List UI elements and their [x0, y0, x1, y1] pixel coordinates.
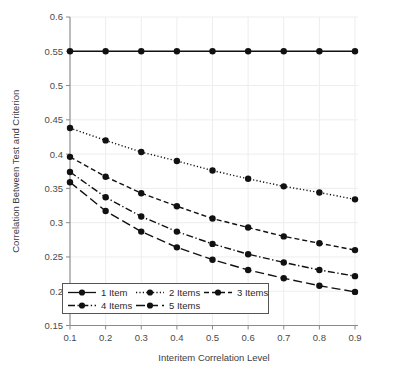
data-point-marker	[102, 208, 108, 214]
data-point-marker	[316, 283, 322, 289]
y-tick-label: 0.25	[45, 251, 64, 262]
data-point-marker	[102, 137, 108, 143]
legend-label: 2 Items	[169, 287, 200, 298]
data-point-marker	[174, 48, 180, 54]
data-point-marker	[174, 228, 180, 234]
y-tick-label: 0.55	[45, 46, 64, 57]
data-point-marker	[316, 189, 322, 195]
legend-marker-sample	[79, 302, 85, 308]
data-point-marker	[67, 154, 73, 160]
data-point-marker	[245, 251, 251, 257]
data-point-marker	[67, 179, 73, 185]
data-point-marker	[102, 194, 108, 200]
data-point-marker	[316, 48, 322, 54]
chart-figure: 0.150.20.250.30.350.40.450.50.550.60.10.…	[0, 0, 394, 372]
data-point-marker	[281, 275, 287, 281]
data-point-marker	[138, 213, 144, 219]
data-point-marker	[67, 169, 73, 175]
legend-label: 4 Items	[101, 300, 132, 311]
data-point-marker	[316, 267, 322, 273]
y-axis-title: Correlation Between Test and Criterion	[10, 90, 21, 253]
data-point-marker	[174, 203, 180, 209]
line-chart: 0.150.20.250.30.350.40.450.50.550.60.10.…	[0, 0, 394, 372]
y-tick-label: 0.45	[45, 114, 64, 125]
legend-marker-sample	[147, 289, 153, 295]
data-point-marker	[138, 48, 144, 54]
x-tick-label: 0.2	[99, 332, 112, 343]
data-point-marker	[352, 273, 358, 279]
data-point-marker	[281, 259, 287, 265]
data-point-marker	[67, 48, 73, 54]
x-axis-title: Interitem Correlation Level	[158, 352, 269, 363]
legend-label: 1 Item	[101, 287, 127, 298]
data-point-marker	[209, 215, 215, 221]
x-tick-label: 0.7	[277, 332, 290, 343]
data-point-marker	[138, 228, 144, 234]
legend-label: 5 Items	[169, 300, 200, 311]
legend-label: 3 Items	[237, 287, 268, 298]
data-point-marker	[245, 176, 251, 182]
data-point-marker	[138, 149, 144, 155]
x-tick-label: 0.9	[348, 332, 361, 343]
data-point-marker	[209, 256, 215, 262]
data-point-marker	[209, 167, 215, 173]
x-tick-label: 0.6	[242, 332, 255, 343]
legend-marker-sample	[147, 302, 153, 308]
y-tick-label: 0.3	[50, 217, 63, 228]
y-tick-label: 0.4	[50, 149, 63, 160]
chart-legend: 1 Item2 Items3 Items4 Items5 Items	[63, 284, 269, 314]
y-tick-label: 0.15	[45, 320, 64, 331]
data-point-marker	[316, 240, 322, 246]
x-tick-label: 0.3	[135, 332, 148, 343]
data-point-marker	[352, 48, 358, 54]
y-tick-label: 0.35	[45, 183, 64, 194]
y-tick-label: 0.5	[50, 80, 63, 91]
data-point-marker	[281, 48, 287, 54]
x-tick-label: 0.1	[63, 332, 76, 343]
data-point-marker	[67, 125, 73, 131]
data-point-marker	[102, 48, 108, 54]
data-point-marker	[281, 183, 287, 189]
data-point-marker	[352, 289, 358, 295]
data-point-marker	[174, 244, 180, 250]
data-point-marker	[174, 158, 180, 164]
data-point-marker	[138, 190, 144, 196]
data-point-marker	[102, 174, 108, 180]
data-point-marker	[245, 224, 251, 230]
data-point-marker	[352, 196, 358, 202]
x-tick-label: 0.8	[313, 332, 326, 343]
data-point-marker	[245, 267, 251, 273]
data-point-marker	[209, 48, 215, 54]
data-point-marker	[281, 233, 287, 239]
x-tick-label: 0.4	[170, 332, 183, 343]
y-tick-label: 0.2	[50, 286, 63, 297]
x-tick-label: 0.5	[206, 332, 219, 343]
data-point-marker	[209, 241, 215, 247]
legend-marker-sample	[79, 289, 85, 295]
data-point-marker	[352, 247, 358, 253]
y-tick-label: 0.6	[50, 11, 63, 22]
legend-marker-sample	[215, 289, 221, 295]
data-point-marker	[245, 48, 251, 54]
